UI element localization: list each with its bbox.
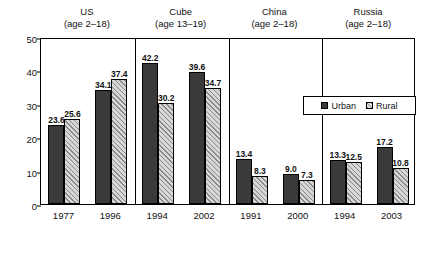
x-axis-tick-1994: 1994: [334, 210, 355, 221]
bar-value-label: 17.2: [376, 137, 393, 147]
legend-label-rural: Rural: [376, 101, 398, 111]
legend-item-urban: Urban: [321, 101, 356, 111]
y-axis-tick-30: 30: [3, 100, 37, 111]
bar-rural-1994: 12.5: [346, 162, 362, 204]
x-axis-tick-1977: 1977: [53, 210, 74, 221]
bar-value-label: 13.3: [329, 150, 346, 160]
group-name: Cube: [134, 6, 228, 18]
bar-value-label: 39.6: [189, 62, 206, 72]
bar-urban-1996: 34.1: [95, 90, 111, 204]
group-header-russia: Russia(age 2–18): [321, 6, 415, 30]
bar-urban-2002: 39.6: [189, 72, 205, 204]
bar-value-label: 13.4: [236, 149, 253, 159]
bar-value-label: 34.1: [95, 80, 112, 90]
bar-urban-1994: 13.3: [330, 160, 346, 204]
bar-urban-2003: 17.2: [377, 147, 393, 204]
bar-urban-2000: 9.0: [283, 174, 299, 204]
x-axis-tick-1991: 1991: [240, 210, 261, 221]
bar-value-label: 25.6: [64, 109, 81, 119]
x-axis-tick-1994: 1994: [147, 210, 168, 221]
bar-rural-2002: 34.7: [205, 88, 221, 204]
bar-value-label: 37.4: [111, 69, 128, 79]
y-axis-tick-0: 0: [3, 201, 37, 212]
legend-label-urban: Urban: [331, 101, 356, 111]
group-header-cube: Cube(age 13–19): [134, 6, 228, 30]
group-separator: [135, 39, 136, 204]
y-axis-tick-mark: [37, 105, 41, 106]
legend-swatch-urban-icon: [321, 102, 328, 109]
group-header-us: US(age 2–18): [40, 6, 134, 30]
bar-value-label: 30.2: [158, 93, 175, 103]
group-separator: [229, 39, 230, 204]
y-axis-tick-mark: [37, 39, 41, 40]
x-axis-tick-2000: 2000: [287, 210, 308, 221]
bar-value-label: 34.7: [205, 78, 222, 88]
bar-chart: US(age 2–18)Cube(age 13–19)China(age 2–1…: [0, 0, 427, 259]
group-separator: [322, 39, 323, 204]
bar-rural-1994: 30.2: [158, 103, 174, 204]
bar-value-label: 23.6: [48, 115, 65, 125]
x-axis-tick-1996: 1996: [100, 210, 121, 221]
group-name: US: [40, 6, 134, 18]
bar-value-label: 42.2: [142, 53, 159, 63]
y-axis-tick-40: 40: [3, 67, 37, 78]
bar-urban-1977: 23.6: [48, 125, 64, 204]
legend-swatch-rural-icon: [366, 102, 373, 109]
group-age-range: (age 2–18): [228, 18, 322, 30]
group-name: China: [228, 6, 322, 18]
bar-rural-1996: 37.4: [111, 79, 127, 204]
group-header-china: China(age 2–18): [228, 6, 322, 30]
y-axis-tick-50: 50: [3, 34, 37, 45]
bar-rural-2000: 7.3: [299, 180, 315, 204]
chart-legend: Urban Rural: [303, 96, 416, 115]
group-age-range: (age 13–19): [134, 18, 228, 30]
bar-rural-1977: 25.6: [64, 119, 80, 205]
bar-value-label: 7.3: [301, 170, 313, 180]
bar-rural-1991: 8.3: [252, 176, 268, 204]
y-axis-tick-20: 20: [3, 134, 37, 145]
y-axis-tick-mark: [37, 172, 41, 173]
group-name: Russia: [321, 6, 415, 18]
group-age-range: (age 2–18): [40, 18, 134, 30]
y-axis-tick-mark: [37, 206, 41, 207]
y-axis-tick-mark: [37, 72, 41, 73]
bar-urban-1991: 13.4: [236, 159, 252, 204]
y-axis-tick-10: 10: [3, 167, 37, 178]
bar-rural-2003: 10.8: [393, 168, 409, 204]
x-axis-tick-2002: 2002: [193, 210, 214, 221]
y-axis-tick-mark: [37, 139, 41, 140]
bar-value-label: 12.5: [345, 152, 362, 162]
legend-item-rural: Rural: [366, 101, 398, 111]
bar-value-label: 8.3: [254, 166, 266, 176]
bar-value-label: 9.0: [285, 164, 297, 174]
plot-area: Percent 01020304050 23.625.634.137.442.2…: [40, 38, 415, 205]
x-axis-tick-2003: 2003: [381, 210, 402, 221]
bar-urban-1994: 42.2: [142, 63, 158, 204]
group-age-range: (age 2–18): [321, 18, 415, 30]
bar-value-label: 10.8: [392, 158, 409, 168]
